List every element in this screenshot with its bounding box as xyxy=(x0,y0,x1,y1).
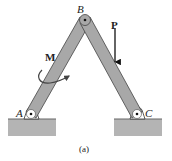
ground-a xyxy=(8,119,56,136)
label-p: P xyxy=(111,19,118,31)
label-b: B xyxy=(77,3,84,15)
pin-c-icon xyxy=(136,113,139,116)
member-ab xyxy=(26,17,90,118)
member-bc xyxy=(80,17,142,118)
label-c: C xyxy=(145,107,153,119)
ground-c xyxy=(114,119,162,136)
pin-a-icon xyxy=(30,113,33,116)
label-a: A xyxy=(15,107,23,119)
pin-b-icon xyxy=(84,19,87,22)
label-m: M xyxy=(45,51,56,63)
figure-caption: (a) xyxy=(79,144,89,154)
frame-diagram: B P M A C (a) xyxy=(0,0,172,161)
